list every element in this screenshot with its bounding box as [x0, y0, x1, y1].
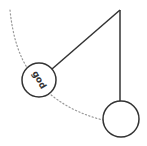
rest-bob — [103, 101, 139, 137]
pendulum-diagram: god — [0, 0, 147, 146]
string-swung — [52, 10, 120, 69]
pendulum-svg: god — [0, 0, 147, 146]
swung-bob: god — [22, 63, 56, 97]
